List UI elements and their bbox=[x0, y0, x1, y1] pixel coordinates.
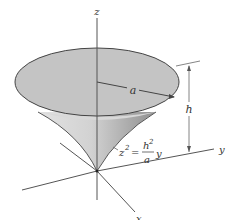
paraboloid-diagram: a h y x z z 2 = h 2 a y bbox=[0, 0, 235, 220]
radius-label: a bbox=[130, 84, 137, 97]
eq-lhs: z bbox=[118, 147, 125, 158]
equation-leader bbox=[113, 147, 118, 150]
height-label: h bbox=[185, 103, 192, 116]
y-axis-label: y bbox=[218, 144, 225, 155]
eq-denominator: a bbox=[144, 154, 150, 165]
y-axis-back bbox=[22, 171, 97, 190]
x-axis-front bbox=[97, 171, 135, 212]
h-extension-line bbox=[176, 61, 200, 66]
z-axis-label: z bbox=[93, 6, 100, 17]
equation: z 2 = h 2 a y bbox=[118, 138, 162, 165]
h-arrow-bottom bbox=[187, 146, 191, 152]
origin-point bbox=[96, 170, 99, 173]
x-axis-label: x bbox=[136, 213, 142, 220]
eq-equals: = bbox=[131, 147, 139, 158]
eq-lhs-exp: 2 bbox=[124, 144, 130, 152]
h-arrow-top bbox=[187, 65, 191, 71]
eq-variable: y bbox=[155, 148, 162, 159]
eq-numerator-exp: 2 bbox=[148, 138, 154, 146]
